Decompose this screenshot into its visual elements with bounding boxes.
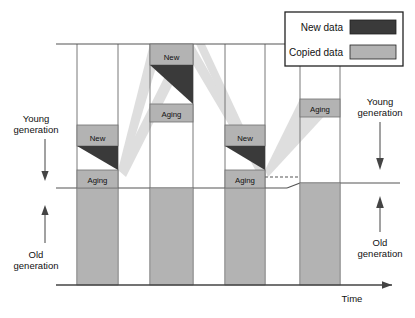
- legend-swatch-copied-data: [350, 45, 396, 59]
- right-young-line2: generation: [358, 107, 403, 118]
- legend-swatch-new-data: [350, 20, 396, 34]
- legend-label-copied-data: Copied data: [289, 47, 343, 58]
- left-old-line1: Old: [29, 249, 44, 260]
- right-young-line1: Young: [367, 96, 394, 107]
- generation-diagram: New Aging New Aging New Aging Aging Time…: [0, 0, 415, 318]
- aging-label-2: Aging: [162, 110, 182, 119]
- left-old-line2: generation: [14, 260, 59, 271]
- right-old-line2: generation: [358, 248, 403, 259]
- new-label-2: New: [164, 53, 180, 62]
- right-old-line1: Old: [373, 237, 388, 248]
- left-young-line1: Young: [23, 113, 50, 124]
- old-gen-bar-4: [300, 183, 340, 285]
- old-gen-bar-1: [77, 188, 118, 285]
- new-label-1: New: [90, 134, 106, 143]
- old-gen-bar-3: [225, 188, 265, 285]
- group-4: Aging: [300, 99, 340, 117]
- new-label-3: New: [237, 134, 253, 143]
- figure-canvas: New Aging New Aging New Aging Aging Time…: [0, 0, 415, 318]
- legend: New data Copied data: [285, 12, 403, 66]
- left-young-line2: generation: [14, 124, 59, 135]
- legend-label-new-data: New data: [301, 22, 344, 33]
- x-axis-label: Time: [342, 293, 363, 304]
- aging-label-4: Aging: [310, 105, 330, 114]
- old-gen-bar-2: [150, 188, 193, 285]
- aging-label-3: Aging: [235, 176, 255, 185]
- aging-label-1: Aging: [88, 176, 108, 185]
